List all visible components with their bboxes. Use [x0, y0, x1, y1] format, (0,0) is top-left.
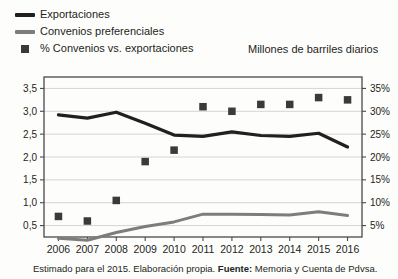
svg-text:2014: 2014	[278, 243, 302, 255]
svg-text:2,5: 2,5	[23, 129, 37, 140]
svg-text:20%: 20%	[370, 152, 390, 163]
footnote-text-before: Estimado para el 2015. Elaboración propi…	[33, 263, 218, 274]
chart-plot: 0,51,01,52,02,53,03,5 5%10%15%20%25%30%3…	[0, 60, 398, 260]
footnote-source-label: Fuente:	[218, 263, 252, 274]
svg-text:1,0: 1,0	[23, 197, 37, 208]
svg-text:25%: 25%	[370, 129, 390, 140]
svg-text:5%: 5%	[370, 220, 385, 231]
series-convenios-line	[58, 212, 347, 240]
svg-text:3,0: 3,0	[23, 106, 37, 117]
svg-text:2007: 2007	[76, 243, 100, 255]
svg-text:35%: 35%	[370, 83, 390, 94]
svg-text:30%: 30%	[370, 106, 390, 117]
footnote-text-after: Memoria y Cuenta de Pdvsa.	[252, 263, 377, 274]
legend-item-exportaciones: Exportaciones	[14, 6, 254, 23]
svg-text:15%: 15%	[370, 174, 390, 185]
left-axis-ticks: 0,51,01,52,02,53,03,5	[23, 83, 44, 231]
legend-square-icon-porcentaje	[14, 45, 36, 53]
legend-line-icon-convenios	[14, 30, 36, 34]
footnote: Estimado para el 2015. Elaboración propi…	[33, 263, 377, 274]
legend-label-exportaciones: Exportaciones	[36, 8, 110, 21]
svg-text:3,5: 3,5	[23, 83, 37, 94]
legend-label-convenios: Convenios preferenciales	[36, 25, 164, 38]
svg-text:1,5: 1,5	[23, 174, 37, 185]
series-porcentaje-markers	[55, 94, 352, 225]
chart-figure: Exportaciones Convenios preferenciales %…	[0, 0, 398, 279]
svg-text:2006: 2006	[47, 243, 71, 255]
chart-legend: Exportaciones Convenios preferenciales %…	[14, 6, 254, 57]
svg-text:2013: 2013	[249, 243, 273, 255]
legend-item-porcentaje: % Convenios vs. exportaciones	[14, 40, 254, 57]
legend-label-porcentaje: % Convenios vs. exportaciones	[36, 42, 193, 55]
svg-text:2009: 2009	[134, 243, 158, 255]
right-axis-ticks: 5%10%15%20%25%30%35%	[362, 83, 390, 231]
series-exportaciones-line	[58, 112, 347, 147]
unit-caption: Millones de barriles diarios	[248, 43, 378, 55]
legend-line-icon-exportaciones	[14, 13, 36, 17]
svg-text:2008: 2008	[105, 243, 129, 255]
svg-text:2016: 2016	[336, 243, 360, 255]
svg-text:2012: 2012	[220, 243, 244, 255]
svg-text:2,0: 2,0	[23, 152, 37, 163]
svg-text:2015: 2015	[307, 243, 331, 255]
svg-text:0,5: 0,5	[23, 220, 37, 231]
legend-item-convenios: Convenios preferenciales	[14, 23, 254, 40]
x-axis-labels: 2006200720082009201020112012201320142015…	[47, 243, 360, 255]
svg-text:10%: 10%	[370, 197, 390, 208]
svg-text:2010: 2010	[162, 243, 186, 255]
svg-text:2011: 2011	[192, 243, 215, 255]
